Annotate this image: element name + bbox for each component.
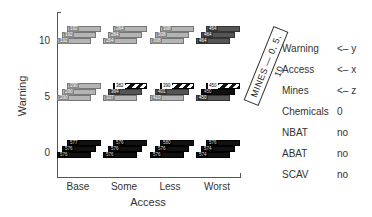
bar: 576: [103, 152, 137, 158]
bar-value: 264: [105, 38, 115, 44]
bar-value: 450: [198, 95, 208, 101]
legend-key: NBAT: [282, 127, 337, 138]
bar: 464: [196, 38, 230, 44]
bar: 450: [196, 95, 230, 101]
bar: 410: [150, 95, 184, 101]
bar-value: 574: [198, 152, 208, 158]
legend-value: 0: [337, 106, 343, 117]
bar-value: 576: [59, 152, 69, 158]
legend-row-nbat: NBATno: [282, 127, 348, 138]
legend-row-abat: ABATno: [282, 148, 348, 159]
bar: 290: [57, 95, 91, 101]
x-tick-less: Less: [150, 181, 190, 192]
bar: 337: [103, 95, 137, 101]
legend-value: no: [337, 148, 348, 159]
legend-key: SCAV: [282, 169, 337, 180]
bar-value: 576: [105, 152, 115, 158]
bar-value: 410: [152, 95, 162, 101]
legend-key: Chemicals: [282, 106, 337, 117]
y-axis-cap: [57, 12, 61, 13]
legend-value: no: [337, 127, 348, 138]
legend-key: Warning: [282, 43, 337, 54]
bar-value: 308: [152, 38, 162, 44]
bar: 264: [103, 38, 137, 44]
bar-value: 337: [105, 95, 115, 101]
x-axis-label: Access: [108, 196, 188, 208]
x-axis-cap: [240, 173, 241, 178]
legend-value: <– x: [337, 64, 356, 75]
x-axis-line: [57, 177, 241, 178]
legend-key: Access: [282, 64, 337, 75]
bar-value: 576: [152, 152, 162, 158]
bar-value: 192: [59, 38, 69, 44]
bar: 308: [150, 38, 184, 44]
y-tick-0: 0: [30, 147, 50, 158]
legend-row-mines: Mines<– z: [282, 85, 356, 96]
bar: 574: [196, 152, 230, 158]
y-tick-10: 10: [30, 35, 50, 46]
bar: 576: [150, 152, 184, 158]
legend-key: ABAT: [282, 148, 337, 159]
legend-row-scav: SCAVno: [282, 169, 348, 180]
legend-row-access: Access<– x: [282, 64, 356, 75]
x-tick-some: Some: [104, 181, 144, 192]
bar: 192: [57, 38, 91, 44]
legend-row-chemicals: Chemicals0: [282, 106, 343, 117]
x-tick-base: Base: [58, 181, 98, 192]
x-tick-worst: Worst: [197, 181, 237, 192]
legend-key: Mines: [282, 85, 337, 96]
legend-value: no: [337, 169, 348, 180]
legend-row-warning: Warning<– y: [282, 43, 356, 54]
bar-value: 464: [198, 38, 208, 44]
legend-value: <– z: [337, 85, 356, 96]
bar-value: 290: [59, 95, 69, 101]
y-tick-5: 5: [30, 91, 50, 102]
bar: 576: [57, 152, 91, 158]
legend-value: <– y: [337, 43, 356, 54]
y-axis-label: Warning: [16, 66, 28, 126]
